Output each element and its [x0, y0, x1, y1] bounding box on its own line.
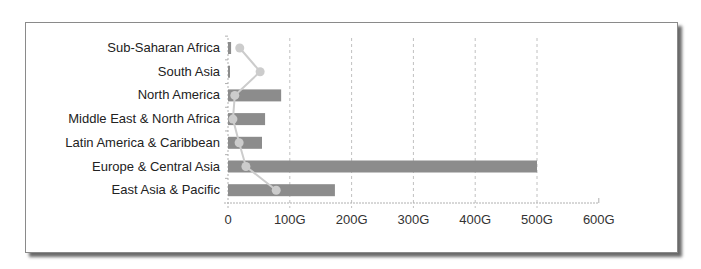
line-point-middle-east-north-africa[interactable]: [228, 115, 237, 124]
line-point-europe-central-asia[interactable]: [241, 162, 250, 171]
line-point-sub-saharan-africa[interactable]: [235, 44, 244, 53]
y-label: Latin America & Caribbean: [65, 136, 220, 150]
y-label: North America: [138, 88, 220, 102]
y-label: East Asia & Pacific: [112, 183, 220, 197]
bar-east-asia-pacific[interactable]: [228, 184, 335, 196]
line-point-north-america[interactable]: [230, 91, 239, 100]
line-point-latin-america-caribbean[interactable]: [235, 138, 244, 147]
bar-south-asia[interactable]: [228, 66, 230, 78]
bar-latin-america-caribbean[interactable]: [228, 137, 262, 149]
x-tick-label: 200G: [336, 212, 368, 227]
x-tick-label: 600G: [583, 212, 615, 227]
x-tick-label: 300G: [397, 212, 429, 227]
x-tick-label: 400G: [459, 212, 491, 227]
y-label: Europe & Central Asia: [92, 160, 220, 174]
y-label: Sub-Saharan Africa: [107, 41, 220, 55]
bar-europe-central-asia[interactable]: [228, 161, 537, 173]
line-point-east-asia-pacific[interactable]: [272, 186, 281, 195]
x-tick-label: 0: [224, 212, 231, 227]
line-point-south-asia[interactable]: [256, 67, 265, 76]
x-tick-label: 500G: [521, 212, 553, 227]
y-label: South Asia: [158, 65, 220, 79]
y-label: Middle East & North Africa: [68, 112, 220, 126]
x-tick-label: 100G: [274, 212, 306, 227]
bar-sub-saharan-africa[interactable]: [228, 42, 231, 54]
